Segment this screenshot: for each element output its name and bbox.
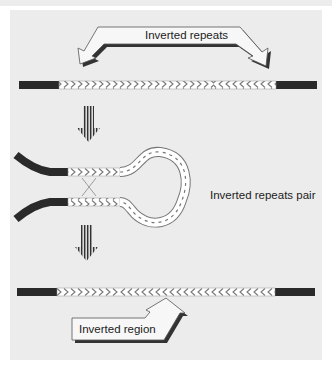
- label-inverted-region: Inverted region: [79, 323, 156, 335]
- diagram-canvas: [0, 0, 332, 369]
- inverted-region-arrow: [72, 298, 188, 343]
- hairpin-structure: [16, 152, 186, 223]
- down-arrow-2: [75, 225, 98, 261]
- dna-original: [19, 81, 317, 89]
- dna-inverted: [17, 288, 315, 296]
- down-arrow-1: [77, 106, 100, 142]
- label-inverted-repeats-pair: Inverted repeats pair: [210, 189, 315, 201]
- label-inverted-repeats: Inverted repeats: [145, 29, 228, 41]
